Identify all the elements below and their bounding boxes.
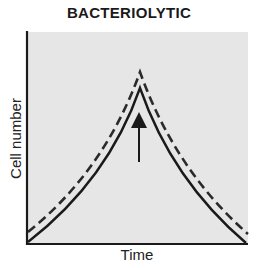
plot-area (0, 0, 258, 268)
